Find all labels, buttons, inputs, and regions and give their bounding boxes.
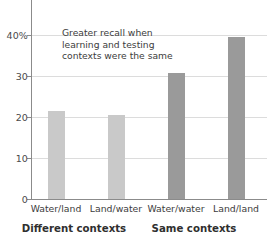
annotation-line-1: Greater recall when xyxy=(62,27,173,39)
gridline-0 xyxy=(32,199,267,200)
bar-land-land[interactable] xyxy=(228,37,245,199)
group-label-same-contexts: Same contexts xyxy=(119,223,267,234)
annotation-line-2: learning and testing xyxy=(62,39,173,51)
bar-water-land[interactable] xyxy=(48,111,65,199)
annotation-line-3: contexts were the same xyxy=(62,50,173,62)
bar-water-water[interactable] xyxy=(168,73,185,199)
x-label-land-land: Land/land xyxy=(199,203,267,214)
bar-chart: 40% 30 20 10 0 Greater recall when learn… xyxy=(0,0,267,241)
chart-annotation: Greater recall when learning and testing… xyxy=(62,27,173,62)
bar-land-water[interactable] xyxy=(108,115,125,199)
